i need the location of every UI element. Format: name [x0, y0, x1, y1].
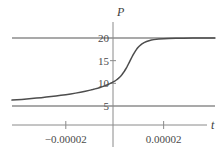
y-tick-label: 20: [83, 33, 109, 44]
y-tick-label: 5: [83, 101, 109, 112]
logistic-growth-figure: 2015105 −0.000020.00002 P t: [0, 0, 223, 158]
x-tick-label: 0.00002: [146, 134, 182, 145]
x-axis-label: t: [211, 119, 214, 131]
plot-canvas: [0, 0, 223, 158]
x-tick-label: −0.00002: [45, 134, 87, 145]
y-axis-label: P: [117, 6, 124, 18]
y-tick-label: 15: [83, 55, 109, 66]
y-tick-label: 10: [83, 78, 109, 89]
